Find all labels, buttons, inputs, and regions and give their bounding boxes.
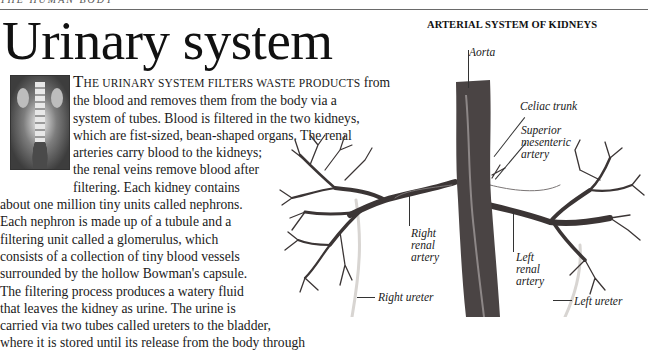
label-celiac-trunk: Celiac trunk [520,100,577,112]
label-line: Superior [521,124,571,136]
label-line: artery [516,275,544,287]
label-superior-mesenteric: Superior mesenteric artery [521,124,571,160]
label-line: Left [516,251,544,263]
leader-aorta [468,50,469,88]
right-kidney-tree [280,135,455,292]
leader-left-renal-artery [513,212,514,252]
label-line: mesenteric [521,136,571,148]
label-line: Right [411,227,439,239]
aorta [456,80,500,317]
label-aorta: Aorta [469,46,495,58]
body-line: carried via two tubes called ureters to … [0,317,330,334]
leader-right-renal-artery [409,196,410,226]
label-left-renal-artery: Left renal artery [516,251,544,287]
label-line: artery [521,148,571,160]
label-line: artery [411,251,439,263]
leader-right-ureter [357,297,375,298]
label-right-ureter: Right ureter [378,291,433,303]
leader-left-ureter [553,300,572,301]
label-right-renal-artery: Right renal artery [411,227,439,263]
body-line: where it is stored until its release fro… [0,334,330,351]
label-line: renal [411,239,439,251]
left-kidney-tree [488,140,644,294]
label-left-ureter: Left ureter [574,295,622,307]
label-line: renal [516,263,544,275]
